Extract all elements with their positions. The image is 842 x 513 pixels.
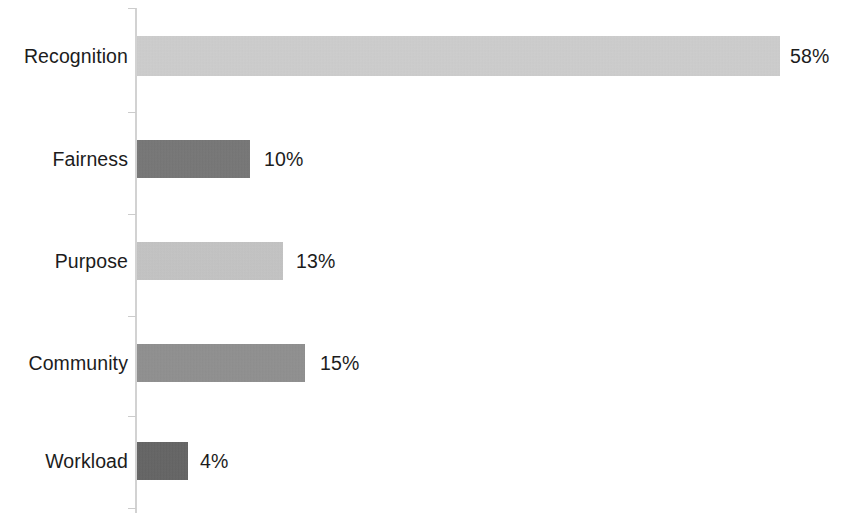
bar-fill [137,36,780,76]
axis-tick [128,508,136,509]
axis-tick [128,416,136,417]
bar-fill [137,442,188,480]
category-label: Community [0,344,128,382]
bar-fill [137,140,250,178]
axis-tick [128,316,136,317]
plot-area: Recognition58%Fairness10%Purpose13%Commu… [0,0,842,513]
bar-row: Recognition58% [0,36,842,76]
category-label: Workload [0,442,128,480]
bar-row: Community15% [0,344,842,382]
axis-tick [128,214,136,215]
bar-purpose[interactable] [137,242,283,280]
category-label: Recognition [0,36,128,76]
bar-row: Purpose13% [0,242,842,280]
value-label: 58% [790,36,829,76]
value-label: 10% [264,140,303,178]
bar-fairness[interactable] [137,140,250,178]
category-label: Fairness [0,140,128,178]
bar-fill [137,344,305,382]
category-label: Purpose [0,242,128,280]
axis-tick [128,8,136,9]
bar-row: Fairness10% [0,140,842,178]
bar-fill [137,242,283,280]
axis-tick [128,112,136,113]
bar-community[interactable] [137,344,305,382]
bar-row: Workload4% [0,442,842,480]
bar-recognition[interactable] [137,36,780,76]
bar-workload[interactable] [137,442,188,480]
value-label: 4% [200,442,228,480]
value-label: 13% [296,242,335,280]
value-label: 15% [320,344,359,382]
bar-chart: Recognition58%Fairness10%Purpose13%Commu… [0,0,842,513]
